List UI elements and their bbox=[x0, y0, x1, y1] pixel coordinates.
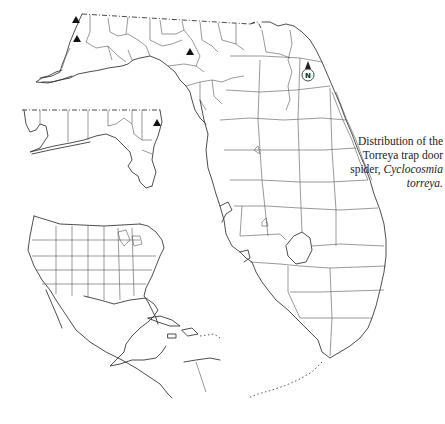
north-arrow: N bbox=[300, 60, 316, 82]
north-america-locator bbox=[28, 216, 220, 398]
caption-line-3: spider, Cyclocosmia bbox=[313, 162, 443, 176]
occurrence-marker bbox=[186, 48, 194, 55]
occurrence-marker bbox=[73, 35, 81, 42]
svg-text:N: N bbox=[305, 72, 311, 80]
caption-line-4: torreya. bbox=[313, 176, 443, 190]
species-genus: Cyclocosmia bbox=[384, 163, 443, 175]
occurrence-marker bbox=[153, 119, 161, 126]
north-arrow-icon: N bbox=[300, 60, 316, 82]
panhandle-strip bbox=[22, 110, 162, 188]
florida-keys bbox=[248, 362, 322, 398]
distribution-map bbox=[0, 0, 445, 424]
figure-caption: Distribution of the Torreya trap door sp… bbox=[313, 134, 443, 190]
florida-peninsula bbox=[200, 22, 386, 358]
caption-line-1: Distribution of the bbox=[313, 134, 443, 148]
distribution-markers bbox=[72, 16, 194, 126]
occurrence-marker bbox=[72, 16, 80, 23]
species-epithet: torreya. bbox=[407, 177, 443, 189]
caption-line-2: Torreya trap door bbox=[313, 148, 443, 162]
panhandle-inset bbox=[36, 14, 255, 124]
